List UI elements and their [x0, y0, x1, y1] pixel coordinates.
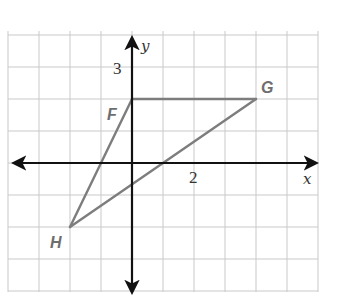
- vertex-label-g: G: [261, 79, 273, 96]
- grid: [8, 31, 318, 292]
- y-axis-label: y: [140, 37, 150, 55]
- vertex-label-h: H: [50, 234, 62, 251]
- vertex-label-f: F: [107, 106, 118, 123]
- x-tick-label-2: 2: [189, 168, 198, 187]
- x-axis-label: x: [303, 170, 312, 188]
- coordinate-plane-diagram: y x 3 2 F G H: [0, 0, 338, 299]
- y-tick-label-3: 3: [113, 59, 122, 78]
